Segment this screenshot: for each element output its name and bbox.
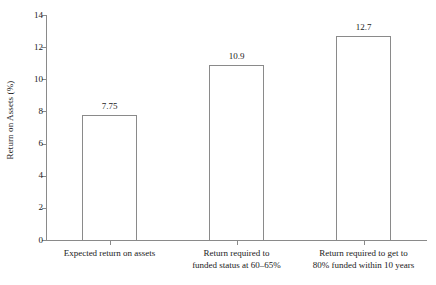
bar-value-label: 7.75: [62, 101, 157, 112]
y-axis-title-label: Return on Assets (%): [5, 81, 15, 160]
x-axis-tick-mark: [237, 241, 238, 245]
bar-chart: Return on Assets (%) 02468101214 7.7510.…: [0, 0, 436, 285]
y-axis-tick-label: 6: [39, 137, 44, 149]
x-axis-tick-mark: [110, 241, 111, 245]
x-axis-category-label-line: Return required to get to: [292, 247, 435, 259]
bar: [336, 36, 391, 241]
x-axis-category-label: Expected return on assets: [38, 247, 181, 259]
x-axis-tick-mark: [364, 241, 365, 245]
bar: [82, 115, 137, 241]
x-axis-category-label-line: Return required to: [165, 247, 308, 259]
y-axis-tick-label: 2: [39, 201, 44, 213]
y-axis-title: Return on Assets (%): [0, 0, 20, 240]
x-axis-category-label-line: Expected return on assets: [38, 247, 181, 259]
y-axis-tick-label: 0: [39, 234, 44, 246]
bar: [209, 65, 264, 241]
x-axis-category-label-line: funded status at 60–65%: [165, 259, 308, 271]
y-axis-tick-label: 12: [34, 41, 43, 53]
y-axis-tick-label: 10: [34, 73, 43, 85]
y-axis-tick-label: 4: [39, 169, 44, 181]
x-axis-category-label: Return required to get to80% funded with…: [292, 247, 435, 271]
y-axis-line: [46, 15, 47, 241]
plot-area: 02468101214 7.7510.912.7: [46, 15, 427, 240]
x-axis-category-label: Return required tofunded status at 60–65…: [165, 247, 308, 271]
bar-value-label: 10.9: [189, 51, 284, 62]
y-axis-tick-label: 14: [34, 9, 43, 21]
bar-value-label: 12.7: [316, 22, 411, 33]
y-axis-tick-label: 8: [39, 105, 44, 117]
x-axis-category-label-line: 80% funded within 10 years: [292, 259, 435, 271]
